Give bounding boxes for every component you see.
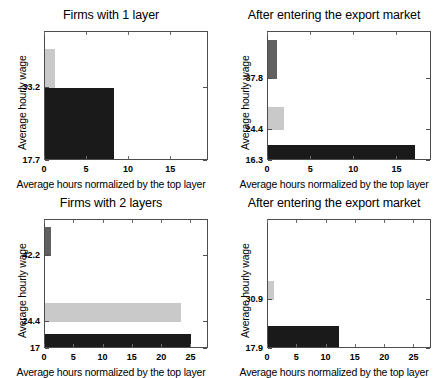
x-tick-mark [86,156,87,159]
y-tick-label: 24.4 [8,317,40,326]
x-tick-mark-top [128,32,129,35]
x-tick-mark [128,156,129,159]
y-tick-mark-right [203,255,207,256]
figure-four-panel-wage-hours: Firms with 1 layer Average hourly wage 0… [0,0,445,378]
x-axis-title: Average hours normalized by the top laye… [223,178,445,190]
y-tick-mark-right [426,160,430,161]
x-tick-label: 15 [156,165,184,174]
y-axis-title: Average hourly wage [16,55,28,150]
x-tick-mark-top [353,32,354,35]
panel-title: Firms with 2 layers [0,196,222,210]
y-tick-mark [268,299,272,300]
x-tick-label: 5 [72,165,100,174]
y-axis-title: Average hourly wage [239,55,251,150]
x-tick-mark-top [310,32,311,35]
bar-layer-1 [45,303,181,322]
x-tick-mark [44,344,45,347]
x-tick-label: 0 [30,165,58,174]
plot-area [44,31,208,160]
y-tick-mark-right [203,321,207,322]
x-tick-mark [161,344,162,347]
plot-area [267,31,431,160]
y-tick-mark-right [426,78,430,79]
y-tick-label: 24.4 [231,125,263,134]
y-tick-mark-right [203,348,207,349]
x-tick-mark [44,156,45,159]
y-tick-mark-right [426,129,430,130]
x-tick-mark [384,344,385,347]
x-tick-mark-top [170,32,171,35]
x-tick-mark [267,344,268,347]
x-tick-mark-top [73,220,74,223]
x-tick-label: 0 [253,165,281,174]
x-tick-label: 5 [296,165,324,174]
x-tick-mark-top [267,32,268,35]
x-tick-label: 20 [370,353,398,362]
x-tick-mark [326,344,327,347]
y-tick-label: 17.7 [8,156,40,165]
y-tick-label: 17 [8,344,40,353]
y-tick-label: 16.3 [231,156,263,165]
x-tick-mark [413,344,414,347]
bar-layer-0 [268,145,415,160]
x-tick-label: 20 [147,353,175,362]
x-tick-label: 0 [253,353,281,362]
plot-area [267,219,431,348]
x-tick-mark-top [44,32,45,35]
x-tick-mark [73,344,74,347]
panel-title: After entering the export market [223,8,445,22]
x-tick-mark [310,156,311,159]
x-tick-mark [355,344,356,347]
x-tick-mark-top [161,220,162,223]
y-tick-mark [45,87,49,88]
bar-layer-0 [45,88,114,160]
panel-firms-2-layers: Firms with 2 layers Average hourly wage … [0,192,222,378]
x-tick-mark-top [132,220,133,223]
y-tick-mark [268,78,272,79]
y-tick-mark [45,321,49,322]
x-tick-mark-top [396,32,397,35]
x-tick-mark-top [103,220,104,223]
x-tick-mark-top [413,220,414,223]
x-tick-label: 0 [30,353,58,362]
y-tick-mark [45,255,49,256]
bar-layer-2 [45,227,51,256]
y-tick-label: 37.8 [231,74,263,83]
x-tick-label: 5 [59,353,87,362]
panel-firms-2-layers-export: After entering the export market Average… [223,192,445,378]
x-tick-mark [267,156,268,159]
x-tick-label: 10 [312,353,340,362]
x-tick-label: 10 [339,165,367,174]
x-tick-mark-top [326,220,327,223]
x-axis-title: Average hours normalized by the top laye… [0,178,222,190]
y-tick-mark [268,348,272,349]
x-tick-mark [103,344,104,347]
x-tick-mark-top [355,220,356,223]
x-tick-mark-top [267,220,268,223]
y-tick-mark-right [203,160,207,161]
x-tick-mark [190,344,191,347]
x-tick-label: 25 [399,353,427,362]
y-tick-label: 33.2 [8,83,40,92]
bar-layer-2 [268,40,277,79]
bar-layer-1 [268,107,284,130]
panel-title: After entering the export market [223,196,445,210]
x-tick-mark-top [296,220,297,223]
x-tick-label: 15 [341,353,369,362]
x-axis-title: Average hours normalized by the top laye… [0,366,222,378]
x-tick-mark [353,156,354,159]
x-tick-label: 15 [118,353,146,362]
y-tick-mark-right [426,299,430,300]
x-tick-label: 5 [282,353,310,362]
x-tick-mark-top [86,32,87,35]
bar-layer-1 [45,49,55,88]
y-axis-title: Average hourly wage [239,243,251,338]
x-tick-label: 15 [382,165,410,174]
y-tick-label: 42.2 [8,251,40,260]
y-tick-mark [45,348,49,349]
x-axis-title: Average hours normalized by the top laye… [223,366,445,378]
bar-layer-0 [268,326,339,348]
y-tick-mark [45,160,49,161]
panel-firms-1-layer: Firms with 1 layer Average hourly wage 0… [0,4,222,190]
x-tick-mark [170,156,171,159]
